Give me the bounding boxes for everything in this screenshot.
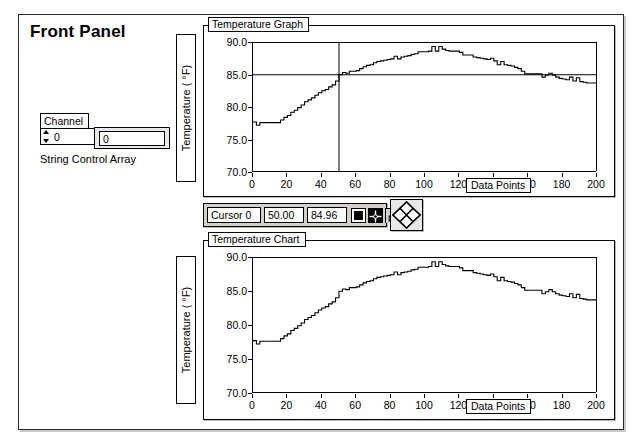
x-axis-tick-mark <box>355 173 356 177</box>
x-axis-tick-label: 200 <box>587 400 605 410</box>
x-axis-tick-label: 40 <box>315 400 327 410</box>
x-axis-tick-label: 20 <box>281 179 293 189</box>
x-axis-tick-label: 120 <box>450 400 468 410</box>
chart-data-line <box>253 262 597 344</box>
y-axis-tick-label: 85.0 <box>227 286 247 296</box>
x-axis-tick-mark <box>286 394 287 398</box>
x-axis-tick-label: 40 <box>315 179 327 189</box>
x-axis-tick-label: 120 <box>450 179 468 189</box>
string-control-array-label: String Control Array <box>40 153 136 165</box>
chart-plot-area[interactable] <box>252 257 596 393</box>
y-axis-tick-label: 85.0 <box>227 70 247 80</box>
y-axis-tick-label: 90.0 <box>227 37 247 47</box>
cursor-pad-glyph <box>391 200 422 230</box>
array-index-control[interactable]: 0 <box>40 128 97 145</box>
x-axis-tick-label: 60 <box>349 400 361 410</box>
graph-y-axis-caption-text: Temperature ( °F) <box>180 65 192 151</box>
y-axis-tick-label: 75.0 <box>227 135 247 145</box>
x-axis-tick-label: 80 <box>384 400 396 410</box>
cursor-move-diamond-pad-icon[interactable] <box>390 199 423 231</box>
chart-title-label: Temperature Chart <box>208 232 306 247</box>
x-axis-tick-mark <box>321 173 322 177</box>
graph-title-label: Temperature Graph <box>208 17 309 32</box>
increment-arrow-icon[interactable] <box>43 130 49 134</box>
x-axis-tick-mark <box>424 394 425 398</box>
chart-y-axis-caption: Temperature ( °F) <box>176 256 196 404</box>
chart-plot-wrap: 70.075.080.085.090.002040608010012014016… <box>252 257 596 393</box>
cursor-legend[interactable]: Cursor 0 50.00 84.96 <box>203 203 387 227</box>
x-axis-tick-label: 100 <box>415 400 433 410</box>
chart-x-axis-caption: Data Points <box>466 399 531 414</box>
x-axis-tick-mark <box>562 394 563 398</box>
x-axis-tick-mark <box>596 394 597 398</box>
page-title: Front Panel <box>30 22 126 42</box>
graph-plot-svg <box>253 42 597 172</box>
x-axis-tick-mark <box>390 173 391 177</box>
graph-y-axis-caption: Temperature ( °F) <box>176 34 196 182</box>
y-axis-tick-mark <box>248 75 252 76</box>
x-axis-tick-mark <box>321 394 322 398</box>
array-index-spinner[interactable] <box>42 130 50 143</box>
temperature-graph[interactable]: Temperature Graph 70.075.080.085.090.002… <box>203 25 615 197</box>
y-axis-tick-mark <box>248 257 252 258</box>
x-axis-tick-label: 80 <box>384 179 396 189</box>
x-axis-tick-label: 180 <box>553 400 571 410</box>
x-axis-tick-label: 200 <box>587 179 605 189</box>
channel-caption-label: Channel <box>40 113 89 129</box>
y-axis-tick-mark <box>248 325 252 326</box>
y-axis-tick-label: 80.0 <box>227 102 247 112</box>
x-axis-tick-mark <box>458 394 459 398</box>
graph-data-line <box>253 47 597 126</box>
array-index-value[interactable]: 0 <box>52 130 95 143</box>
x-axis-tick-mark <box>458 173 459 177</box>
x-axis-tick-mark <box>527 173 528 177</box>
chart-y-axis-caption-text: Temperature ( °F) <box>180 287 192 373</box>
y-axis-tick-mark <box>248 140 252 141</box>
x-axis-tick-mark <box>424 173 425 177</box>
y-axis-tick-mark <box>248 359 252 360</box>
graph-plot-wrap: 70.075.080.085.090.002040608010012014016… <box>252 42 596 172</box>
y-axis-tick-label: 80.0 <box>227 320 247 330</box>
x-axis-tick-mark <box>596 173 597 177</box>
cursor-x-value-field[interactable]: 50.00 <box>264 207 304 223</box>
cursor-style-square-icon[interactable] <box>351 208 366 223</box>
x-axis-tick-mark <box>252 173 253 177</box>
y-axis-tick-mark <box>248 291 252 292</box>
x-axis-tick-mark <box>390 394 391 398</box>
graph-x-axis-caption: Data Points <box>466 178 531 193</box>
y-axis-tick-mark <box>248 107 252 108</box>
array-element-shell: 0 <box>94 127 170 149</box>
x-axis-tick-mark <box>286 173 287 177</box>
x-axis-tick-mark <box>493 394 494 398</box>
string-element-input[interactable]: 0 <box>99 131 165 146</box>
cursor-y-value-field[interactable]: 84.96 <box>307 207 347 223</box>
cursor-crosshair-icon[interactable] <box>368 208 383 223</box>
x-axis-tick-label: 20 <box>281 400 293 410</box>
graph-plot-area[interactable] <box>252 42 596 172</box>
x-axis-tick-label: 180 <box>553 179 571 189</box>
x-axis-tick-mark <box>355 394 356 398</box>
temperature-chart[interactable]: Temperature Chart 70.075.080.085.090.002… <box>203 240 615 420</box>
cursor-crosshair-glyph <box>369 210 382 223</box>
cursor-name-field[interactable]: Cursor 0 <box>207 207 261 223</box>
x-axis-tick-mark <box>527 394 528 398</box>
y-axis-tick-label: 90.0 <box>227 252 247 262</box>
x-axis-tick-mark <box>252 394 253 398</box>
x-axis-tick-label: 100 <box>415 179 433 189</box>
x-axis-tick-label: 60 <box>349 179 361 189</box>
y-axis-tick-label: 70.0 <box>227 388 247 398</box>
x-axis-tick-mark <box>493 173 494 177</box>
chart-plot-svg <box>253 257 597 393</box>
decrement-arrow-icon[interactable] <box>43 139 49 143</box>
x-axis-tick-label: 0 <box>249 400 255 410</box>
y-axis-tick-label: 70.0 <box>227 167 247 177</box>
y-axis-tick-label: 75.0 <box>227 354 247 364</box>
y-axis-tick-mark <box>248 42 252 43</box>
x-axis-tick-label: 0 <box>249 179 255 189</box>
x-axis-tick-mark <box>562 173 563 177</box>
